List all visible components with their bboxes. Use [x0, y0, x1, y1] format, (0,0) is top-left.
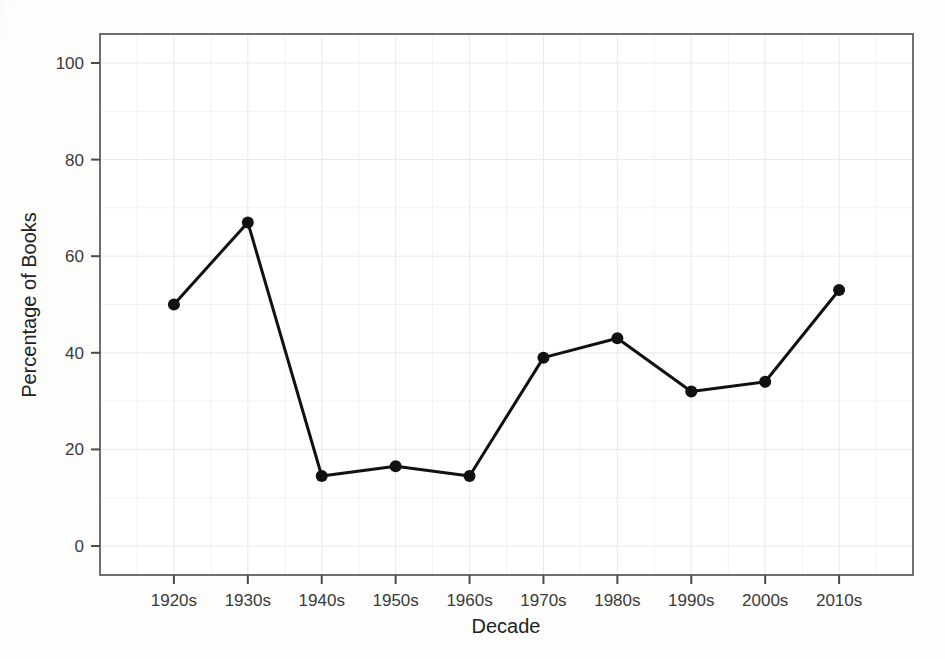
x-tick-label: 2010s: [816, 591, 862, 610]
x-axis-tick-marks: [174, 575, 839, 584]
data-point-marker: [759, 376, 771, 388]
data-point-marker: [168, 299, 180, 311]
x-tick-label: 1990s: [668, 591, 714, 610]
data-point-marker: [537, 352, 549, 364]
data-point-marker: [390, 460, 402, 472]
y-tick-label: 20: [65, 440, 84, 459]
chart-figure: 020406080100 1920s1930s1940s1950s1960s19…: [0, 0, 945, 659]
y-tick-label: 0: [75, 537, 84, 556]
y-tick-label: 60: [65, 247, 84, 266]
data-point-marker: [611, 332, 623, 344]
x-tick-label: 1960s: [446, 591, 492, 610]
x-axis-title: Decade: [472, 615, 541, 637]
x-axis-tick-labels: 1920s1930s1940s1950s1960s1970s1980s1990s…: [151, 591, 863, 610]
data-point-marker: [464, 470, 476, 482]
data-point-marker: [685, 385, 697, 397]
x-tick-label: 2000s: [742, 591, 788, 610]
x-tick-label: 1930s: [225, 591, 271, 610]
data-point-marker: [833, 284, 845, 296]
y-tick-label: 100: [56, 54, 84, 73]
y-axis-title: Percentage of Books: [18, 212, 40, 398]
x-tick-label: 1920s: [151, 591, 197, 610]
y-tick-label: 40: [65, 344, 84, 363]
y-tick-label: 80: [65, 151, 84, 170]
data-point-marker: [242, 216, 254, 228]
x-tick-label: 1970s: [520, 591, 566, 610]
x-tick-label: 1980s: [594, 591, 640, 610]
y-axis-tick-marks: [91, 63, 100, 546]
line-chart-canvas: 020406080100 1920s1930s1940s1950s1960s19…: [0, 0, 945, 659]
x-tick-label: 1940s: [299, 591, 345, 610]
x-tick-label: 1950s: [372, 591, 418, 610]
data-point-marker: [316, 470, 328, 482]
y-axis-tick-labels: 020406080100: [56, 54, 84, 556]
